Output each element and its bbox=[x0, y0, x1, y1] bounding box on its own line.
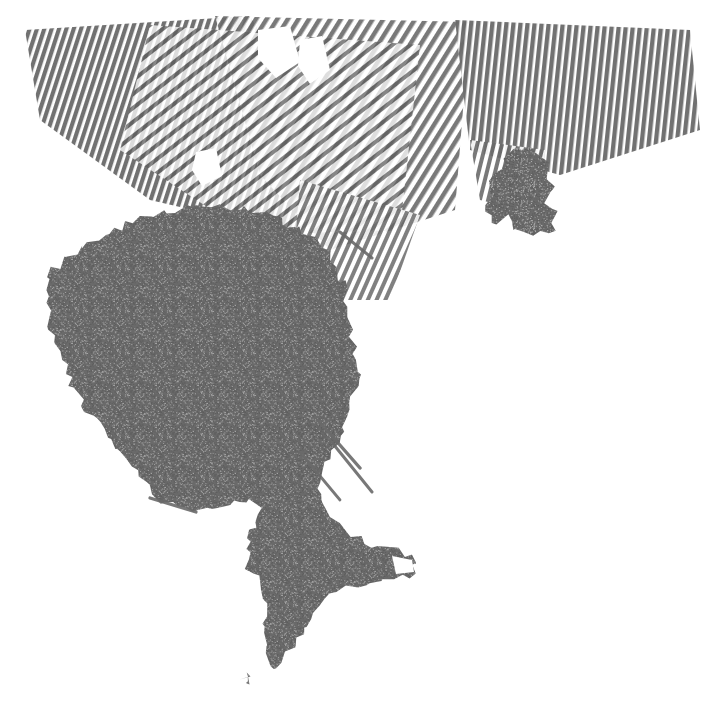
artwork-svg bbox=[0, 0, 701, 701]
artwork-canvas: Abstract Hatched Composition Monochrome … bbox=[0, 0, 701, 701]
